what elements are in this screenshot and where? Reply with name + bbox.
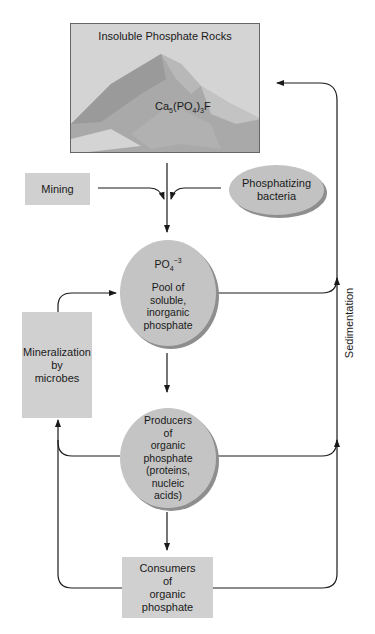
consumers-organic-phosphate-box: Consumers of organic phosphate xyxy=(122,557,213,618)
mineralization-label: microbes xyxy=(35,372,80,385)
consumers-label: of xyxy=(163,575,172,588)
consumers-label: Consumers xyxy=(139,562,195,575)
pool-label: soluble, xyxy=(150,294,186,307)
bacteria-label-line1: Phosphatizing xyxy=(242,177,311,189)
bacteria-label-line2: bacteria xyxy=(257,190,296,202)
mining-box: Mining xyxy=(25,173,90,205)
phosphatizing-bacteria-ellipse: Phosphatizingbacteria xyxy=(229,165,324,215)
arrow-mining xyxy=(98,188,164,199)
consumers-label: phosphate xyxy=(142,601,193,614)
mining-label: Mining xyxy=(41,183,73,196)
arrow-mineralization-to-pool xyxy=(58,293,116,312)
mineralization-by-microbes-box: Mineralization by microbes xyxy=(22,312,92,418)
arrow-producers-to-mineralization xyxy=(58,420,120,456)
fluorapatite-formula: Ca5(PO4)3F xyxy=(155,100,211,114)
pool-label: Pool of xyxy=(152,281,185,294)
pool-label: inorganic xyxy=(147,306,190,319)
soluble-phosphate-pool-circle: PO4−3 Pool of soluble, inorganic phospha… xyxy=(120,240,216,346)
mineralization-label: by xyxy=(51,359,63,372)
sedimentation-label: Sedimentation xyxy=(343,271,357,375)
arrow-producers-to-sedimentation xyxy=(218,440,337,456)
producers-label: nucleic xyxy=(152,477,185,490)
mountain-illustration xyxy=(71,24,260,153)
arrow-pool-to-sedimentation xyxy=(218,278,337,293)
producers-organic-phosphate-circle: Producers of organic phosphate (proteins… xyxy=(120,408,216,508)
producers-label: Producers xyxy=(144,414,192,427)
insoluble-phosphate-rocks-box: Insoluble Phosphate Rocks Ca5(PO4)3F xyxy=(70,23,260,153)
line-consumers-left xyxy=(58,440,122,588)
arrow-sedimentation-to-rocks xyxy=(213,83,337,588)
mineralization-label: Mineralization xyxy=(23,346,91,359)
producers-label: acids) xyxy=(154,489,182,502)
producers-label: (proteins, xyxy=(146,464,190,477)
pool-label: phosphate xyxy=(143,319,192,332)
arrow-bacteria xyxy=(171,188,221,199)
producers-label: organic xyxy=(151,439,185,452)
phosphate-ion: PO4−3 xyxy=(154,255,181,275)
producers-label: phosphate xyxy=(143,452,192,465)
rock-box-title: Insoluble Phosphate Rocks xyxy=(71,30,259,42)
consumers-label: organic xyxy=(149,588,185,601)
producers-label: of xyxy=(164,427,173,440)
